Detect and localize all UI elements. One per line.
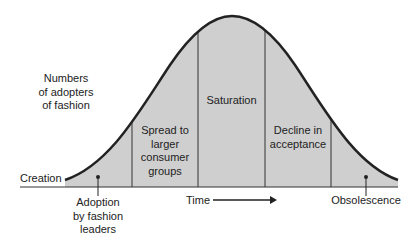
stage-obsolescence-label: Obsolescence bbox=[326, 194, 406, 208]
time-label: Time bbox=[186, 194, 210, 208]
y-axis-label: Numbers of adopters of fashion bbox=[30, 72, 102, 113]
time-arrow-head bbox=[270, 196, 277, 204]
creation-label: Creation bbox=[20, 172, 62, 186]
stage-decline-label: Decline in acceptance bbox=[265, 124, 331, 151]
stage-adoption-label: Adoption by fashion leaders bbox=[63, 196, 133, 237]
stage-spread-label: Spread to larger consumer groups bbox=[132, 124, 198, 178]
stage-saturation-label: Saturation bbox=[198, 94, 265, 108]
